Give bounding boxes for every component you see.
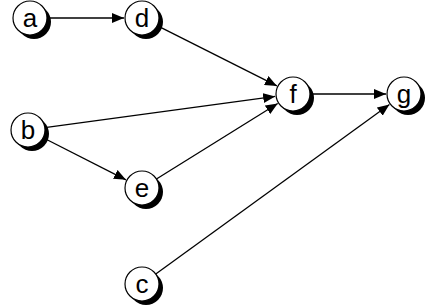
directed-graph-diagram: adbefgc bbox=[0, 0, 428, 307]
node-label: e bbox=[135, 173, 149, 203]
edges-layer bbox=[43, 18, 389, 274]
edge-c-to-g bbox=[156, 105, 390, 274]
node-label: a bbox=[23, 3, 38, 33]
node-label: b bbox=[21, 115, 35, 145]
edge-b-to-e bbox=[43, 138, 126, 180]
edge-b-to-f bbox=[45, 96, 275, 127]
node-f: f bbox=[276, 77, 314, 115]
node-label: c bbox=[136, 269, 149, 299]
edge-e-to-f bbox=[156, 104, 277, 180]
node-b: b bbox=[11, 113, 49, 151]
node-label: d bbox=[135, 3, 149, 33]
node-label: f bbox=[289, 79, 297, 109]
node-label: g bbox=[397, 79, 411, 109]
edge-d-to-f bbox=[157, 26, 277, 86]
node-e: e bbox=[125, 171, 163, 209]
node-a: a bbox=[13, 1, 51, 39]
node-d: d bbox=[125, 1, 163, 39]
node-g: g bbox=[387, 77, 425, 115]
